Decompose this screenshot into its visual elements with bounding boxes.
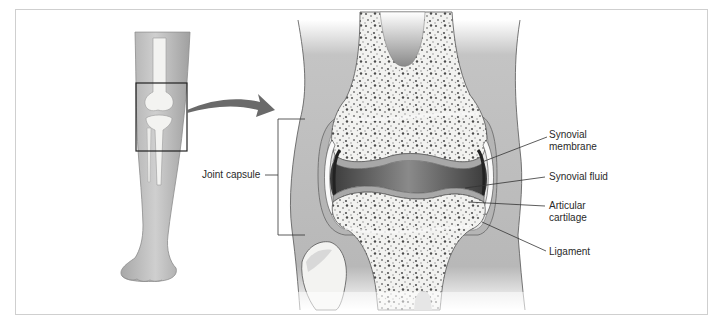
label-synovial-membrane-line2: membrane	[549, 141, 597, 153]
label-articular-cartilage: Articular cartilage	[549, 200, 587, 224]
label-articular-cartilage-line2: cartilage	[549, 212, 587, 224]
zoom-arrow-icon	[187, 94, 275, 117]
label-articular-cartilage-line1: Articular	[549, 200, 587, 212]
label-synovial-membrane-line1: Synovial	[549, 129, 597, 141]
label-synovial-fluid: Synovial fluid	[549, 171, 608, 183]
label-synovial-membrane: Synovial membrane	[549, 129, 597, 153]
knee-cross-section	[290, 12, 530, 314]
knee-illustration	[0, 0, 720, 323]
leg-illustration	[121, 28, 195, 282]
label-joint-capsule: Joint capsule	[202, 169, 260, 181]
label-ligament: Ligament	[549, 246, 590, 258]
